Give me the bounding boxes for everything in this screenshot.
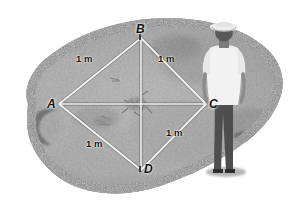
side-label-cd: 1 m [166,128,182,138]
side-label-ab: 1 m [76,54,92,64]
field-photograph [0,0,296,220]
left-shoe [213,169,223,173]
vertex-label-d: D [144,163,153,175]
vertex-label-c: C [209,98,218,110]
side-label-bc: 1 m [158,54,174,64]
shirt [207,45,241,105]
side-label-da: 1 m [86,139,102,149]
vertex-label-a: A [47,98,56,110]
vertex-label-b: B [136,23,145,35]
figure-scene: A B C D 1 m 1 m 1 m 1 m [0,0,296,220]
right-shoe [225,169,235,173]
